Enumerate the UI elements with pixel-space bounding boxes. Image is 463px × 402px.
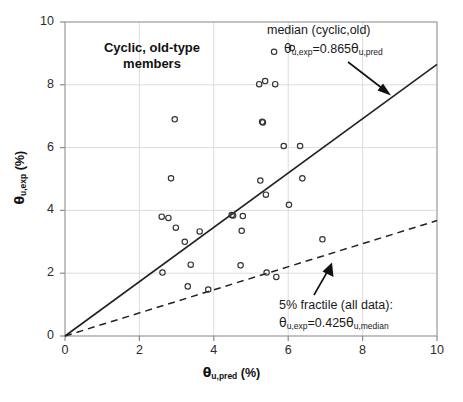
median-eq-lhs-sub: u,exp — [292, 47, 313, 57]
scatter-point — [185, 284, 190, 289]
fractile-eq-rhs-sub: u,median — [354, 321, 389, 331]
median-eq-rhs-sub: u,pred — [359, 47, 383, 57]
xtick-label-10: 10 — [417, 343, 457, 357]
x-axis-subscript: u,pred — [211, 371, 237, 381]
scatter-point — [188, 262, 193, 267]
scatter-point — [173, 225, 178, 230]
scatter-point — [300, 176, 305, 181]
y-axis-subscript: u,exp — [18, 174, 28, 196]
xtick-label-8: 8 — [343, 343, 383, 357]
scatter-point — [166, 215, 171, 220]
median-eq-rhs-theta: θ — [351, 41, 359, 56]
scatter-point — [272, 81, 277, 86]
xtick-label-4: 4 — [194, 343, 234, 357]
fractile-arrow-icon — [314, 263, 334, 296]
scatter-point — [168, 176, 173, 181]
scatter-point — [256, 81, 261, 86]
scatter-point — [182, 239, 187, 244]
xtick-label-6: 6 — [268, 343, 308, 357]
scatter-point-group — [159, 49, 325, 292]
fractile-eq-operator: =0.425 — [307, 316, 346, 330]
scatter-point — [286, 202, 291, 207]
scatter-point — [159, 214, 164, 219]
plot-title-line2: members — [123, 56, 181, 71]
fractile-annotation-label: 5% fractile (all data): — [279, 298, 393, 312]
median-eq-lhs-theta: θ — [284, 41, 292, 56]
y-axis-unit: (%) — [13, 151, 27, 174]
scatter-point — [262, 78, 267, 83]
scatter-point — [238, 263, 243, 268]
chart-figure: 0 2 4 6 8 10 0 2 4 6 8 10 Cyclic, old-ty… — [0, 0, 463, 402]
xtick-label-0: 0 — [45, 343, 85, 357]
scatter-point — [274, 274, 279, 279]
median-eq-operator: =0.865 — [312, 42, 351, 56]
scatter-point — [263, 192, 268, 197]
x-axis-title: θu,pred (%) — [0, 366, 463, 381]
median-equation-label: θu,exp=0.865θu,pred — [284, 42, 383, 57]
scatter-point — [172, 117, 177, 122]
scatter-point — [320, 237, 325, 242]
scatter-point — [271, 49, 276, 54]
scatter-point — [240, 213, 245, 218]
median-annotation-label: median (cyclic,old) — [267, 23, 371, 37]
plot-title-line1: Cyclic, old-type — [104, 40, 200, 55]
scatter-point — [160, 270, 165, 275]
plot-title: Cyclic, old-type members — [72, 40, 232, 73]
fractile-equation-label: θu,exp=0.425θu,median — [279, 316, 389, 331]
fractile-eq-lhs-sub: u,exp — [287, 321, 308, 331]
y-axis-title: θu,exp (%) — [13, 113, 28, 243]
ytick-label-10: 10 — [18, 14, 54, 28]
scatter-point — [264, 270, 269, 275]
scatter-point — [258, 178, 263, 183]
y-axis-theta: θ — [12, 196, 27, 205]
ytick-label-0: 0 — [18, 328, 54, 342]
ytick-label-8: 8 — [18, 77, 54, 91]
fractile-eq-lhs-theta: θ — [279, 315, 287, 330]
xtick-label-2: 2 — [119, 343, 159, 357]
x-axis-unit: (%) — [237, 366, 260, 380]
scatter-point — [197, 229, 202, 234]
fractile-eq-rhs-theta: θ — [346, 315, 354, 330]
scatter-point — [239, 228, 244, 233]
median-arrow-icon — [348, 62, 391, 96]
ytick-label-2: 2 — [18, 265, 54, 279]
median-trend-line — [65, 64, 437, 336]
